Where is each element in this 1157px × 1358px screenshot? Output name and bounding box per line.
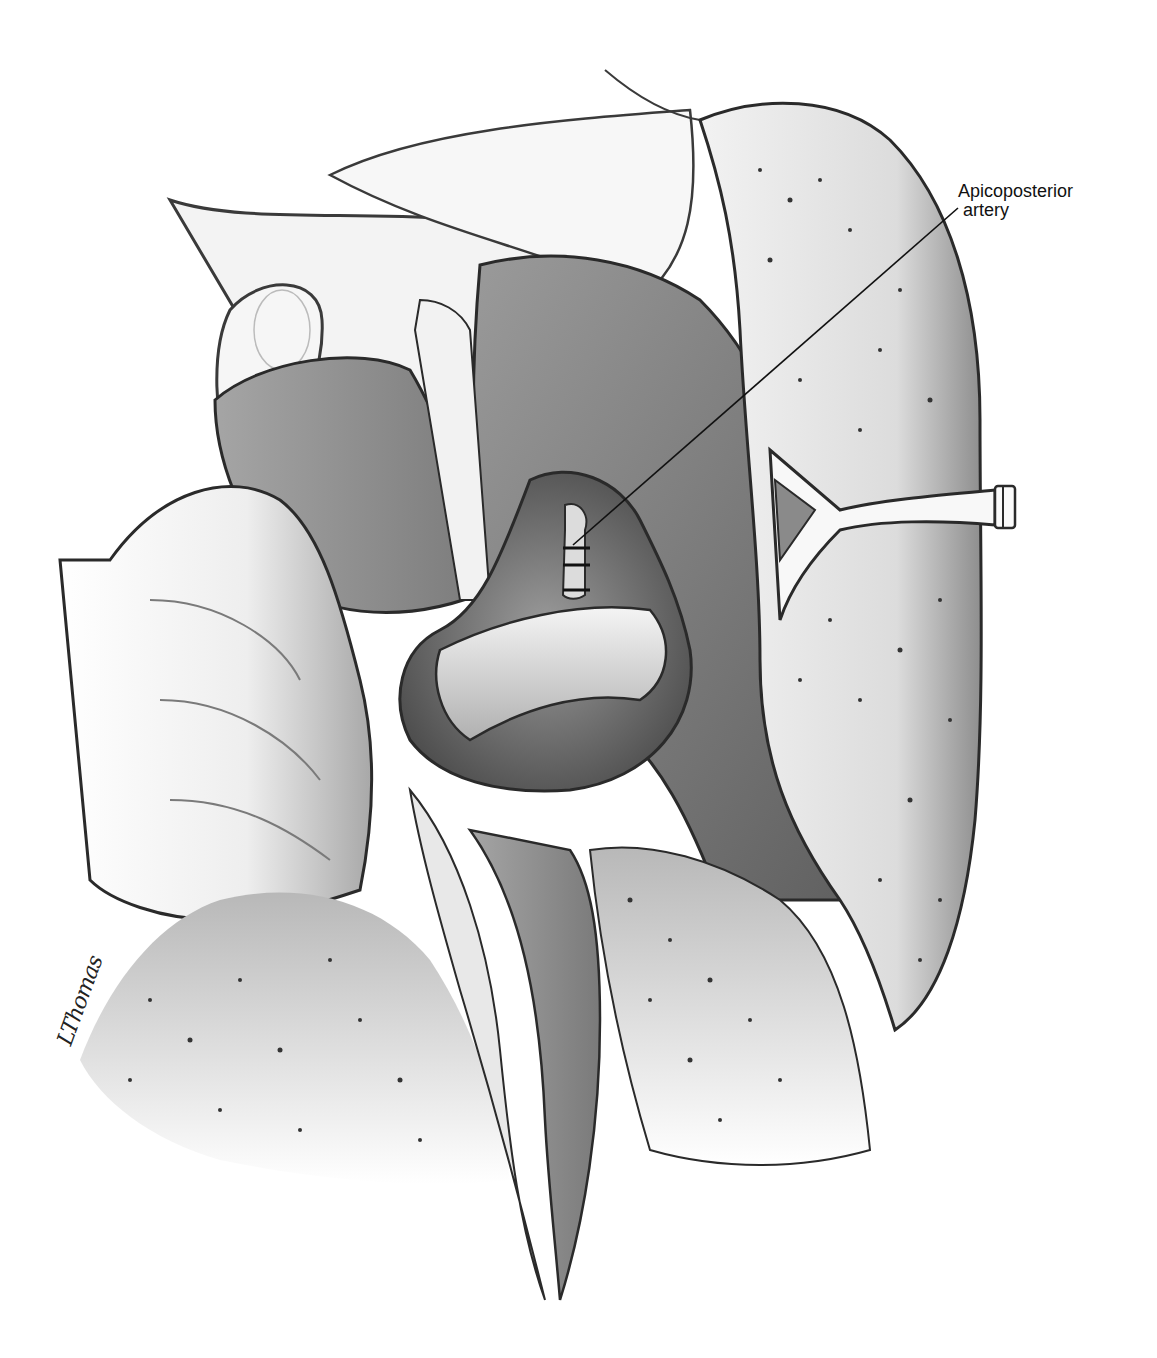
- surgical-illustration: Apicoposterior artery LThomas: [0, 0, 1157, 1358]
- annotation-label-apicoposterior-artery: Apicoposterior artery: [958, 182, 1073, 220]
- annotation-label-line2: artery: [958, 201, 1073, 220]
- annotation-label-line1: Apicoposterior: [958, 182, 1073, 201]
